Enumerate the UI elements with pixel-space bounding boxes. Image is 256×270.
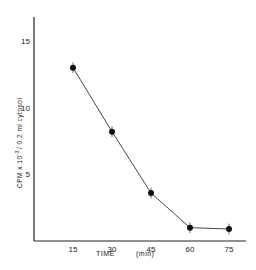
x-axis-label: TIME: [96, 250, 115, 257]
series-line: [73, 68, 229, 229]
y-tick-label: 15: [21, 37, 30, 46]
data-point: [70, 65, 76, 71]
y-tick-label: 5: [26, 170, 31, 179]
axes: [34, 17, 246, 241]
data-point: [148, 190, 154, 196]
svg-text:CPM x 10-3/ 0.2 ml cytosol: CPM x 10-3/ 0.2 ml cytosol: [14, 98, 24, 188]
data-point: [226, 226, 232, 232]
data-series: [70, 62, 232, 234]
x-axis-unit: (min): [136, 250, 154, 258]
x-tick-label: 15: [69, 245, 78, 254]
data-point: [109, 129, 115, 135]
line-chart: 51015 1530456075 TIME (min) CPM x 10-3/ …: [0, 0, 256, 270]
x-tick-label: 60: [186, 245, 195, 254]
y-axis-label: CPM x 10-3/ 0.2 ml cytosol: [14, 98, 24, 188]
x-tick-label: 75: [225, 245, 234, 254]
data-point: [187, 225, 193, 231]
